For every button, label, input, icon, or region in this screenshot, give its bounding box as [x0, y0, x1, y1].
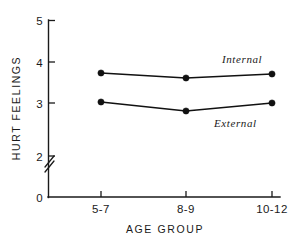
x-axis-title: AGE GROUP	[126, 223, 204, 235]
y-axis-title: HURT FEELINGS	[10, 56, 22, 160]
series-label-internal: Internal	[221, 53, 262, 65]
series-internal-point-1	[183, 75, 189, 81]
x-tick-label-1: 8-9	[177, 203, 195, 215]
series-external-point-0	[98, 99, 104, 105]
y-tick-label-2: 2	[36, 151, 43, 163]
y-tick-label-4: 4	[36, 57, 43, 69]
series-internal	[98, 70, 275, 81]
y-tick-label-5: 5	[36, 15, 43, 27]
y-axis-break-icon	[45, 156, 54, 172]
series-label-external: External	[213, 117, 257, 129]
series-internal-point-2	[269, 71, 275, 77]
line-chart-canvas: 5 4 3 2 0 5-7 8-9 10-12 AGE GROUP HURT F…	[0, 0, 305, 245]
series-internal-point-0	[98, 70, 104, 76]
x-tick-label-0: 5-7	[92, 203, 110, 215]
series-external-point-1	[183, 108, 189, 114]
x-tick-label-2: 10-12	[256, 203, 287, 215]
series-external	[98, 99, 275, 114]
chart-figure: 5 4 3 2 0 5-7 8-9 10-12 AGE GROUP HURT F…	[0, 0, 305, 245]
series-external-point-2	[269, 100, 275, 106]
y-tick-label-3: 3	[36, 98, 43, 110]
y-tick-label-0: 0	[36, 192, 43, 204]
